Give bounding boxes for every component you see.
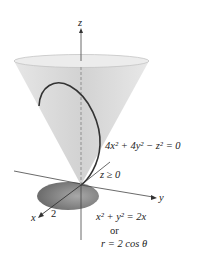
y-axis-arrow: [151, 195, 157, 200]
polar-equation: r = 2 cos θ: [101, 239, 147, 250]
x-axis-back: [14, 171, 81, 184]
z-axis-arrow: [79, 28, 83, 33]
constraint-label: z ≥ 0: [100, 170, 120, 181]
x-axis-label: x: [31, 213, 36, 224]
x-tick-2: 2: [51, 209, 56, 220]
cone-equation: 4x² + 4y² − z² = 0: [105, 141, 181, 152]
y-axis-label: y: [159, 193, 164, 204]
cone-rim: [14, 55, 149, 68]
or-label: or: [110, 226, 119, 237]
cylinder-equation: x² + y² = 2x: [96, 212, 146, 223]
z-axis-label: z: [78, 18, 82, 29]
cone-surface: [14, 61, 149, 185]
